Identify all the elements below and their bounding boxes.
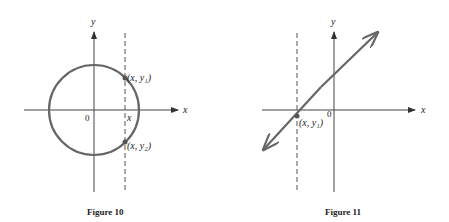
x-axis-label: x	[182, 104, 188, 115]
point-top-label: (x, y₁)	[127, 72, 152, 84]
x-mark-label: x	[126, 112, 132, 123]
figure-11: x y (x, y₁) 0 Figure 11	[262, 16, 426, 217]
y-axis-label: y	[90, 16, 96, 27]
figure-caption: Figure 11	[325, 207, 362, 217]
origin-label: 0	[85, 113, 90, 123]
figure-10: x y (x, y₁) (x, y₂) 0 x Figure 10	[24, 16, 188, 217]
line-curve-upper	[321, 33, 377, 87]
point-label: (x, y₁)	[299, 117, 324, 129]
figure-caption: Figure 10	[87, 207, 124, 217]
x-axis-label: x	[420, 104, 426, 115]
figures-canvas: x y (x, y₁) (x, y₂) 0 x Figure 10 x y (x…	[0, 0, 449, 222]
point-bottom-label: (x, y₂)	[127, 140, 152, 152]
y-axis-label: y	[330, 16, 336, 27]
origin-label: 0	[327, 109, 332, 119]
